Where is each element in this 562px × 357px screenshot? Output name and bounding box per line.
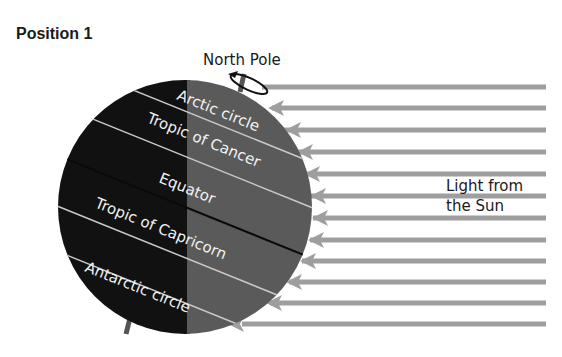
sunlight-label: Light from the Sun (446, 176, 523, 216)
north-pole-label: North Pole (203, 51, 281, 69)
sunlight-label-line2: the Sun (446, 196, 523, 216)
north-axis (240, 74, 244, 92)
sunlight-label-line1: Light from (446, 176, 523, 196)
